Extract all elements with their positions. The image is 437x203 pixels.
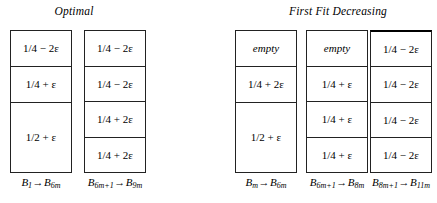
bin-ffd-2: empty 1/4 + ε 1/4 + ε 1/4 + ε: [306, 30, 368, 173]
bin-cell: 1/4 − 2ε: [85, 31, 145, 67]
label-arrow: →: [336, 176, 348, 188]
label-arrow: →: [398, 176, 410, 188]
bin-label-ffd-3: B8m+1→B11m: [360, 176, 437, 190]
label-from-subscript: 8m+1: [379, 181, 398, 190]
bin-cell: 1/4 + 2ε: [85, 102, 145, 138]
bin-packing-figure: Optimal First Fit Decreasing 1/4 − 2ε 1/…: [0, 0, 437, 203]
bin-cell: 1/4 − 2ε: [85, 67, 145, 103]
bin-cell: 1/2 + ε: [11, 103, 71, 173]
label-to-symbol: B: [44, 176, 51, 188]
bin-cell: 1/4 − 2ε: [371, 103, 431, 138]
bin-cell-empty: empty: [307, 31, 367, 67]
label-arrow: →: [258, 176, 270, 188]
bin-cell-empty: empty: [236, 31, 296, 67]
label-from-subscript: 6m+1: [317, 181, 336, 190]
bin-cell: 1/4 + ε: [307, 67, 367, 103]
bin-label-optimal-1: B1→B6m: [6, 176, 76, 190]
group-title-optimal: Optimal: [0, 5, 148, 17]
bin-cell: 1/4 + 2ε: [236, 67, 296, 103]
bin-cell: 1/4 + 2ε: [85, 138, 145, 173]
bin-optimal-1: 1/4 − 2ε 1/4 + ε 1/2 + ε: [10, 30, 72, 173]
label-to-subscript: 6m: [277, 181, 287, 190]
bin-cell: 1/4 − 2ε: [371, 32, 431, 67]
bin-label-optimal-2: B6m+1→B9m: [74, 176, 156, 190]
bin-cell: 1/4 + ε: [11, 67, 71, 103]
bin-optimal-2: 1/4 − 2ε 1/4 − 2ε 1/4 + 2ε 1/4 + 2ε: [84, 30, 146, 173]
bin-cell: 1/4 − 2ε: [11, 31, 71, 67]
label-from-symbol: B: [372, 176, 379, 188]
label-from-subscript: 6m+1: [95, 181, 114, 190]
label-to-subscript: 11m: [417, 181, 430, 190]
bin-label-ffd-1: Bm→B6m: [230, 176, 302, 190]
group-title-first-fit-decreasing: First Fit Decreasing: [240, 5, 436, 17]
label-from-symbol: B: [310, 176, 317, 188]
bin-cell: 1/4 − 2ε: [371, 138, 431, 172]
bin-cell: 1/4 + ε: [307, 102, 367, 138]
bin-cell: 1/4 + ε: [307, 138, 367, 173]
bin-cell: 1/4 − 2ε: [371, 67, 431, 102]
label-from-symbol: B: [88, 176, 95, 188]
label-arrow: →: [32, 176, 44, 188]
label-to-subscript: 9m: [132, 181, 142, 190]
bin-ffd-3: 1/4 − 2ε 1/4 − 2ε 1/4 − 2ε 1/4 − 2ε: [370, 30, 432, 173]
label-to-symbol: B: [270, 176, 277, 188]
label-to-subscript: 6m: [51, 181, 61, 190]
label-to-symbol: B: [410, 176, 417, 188]
bin-ffd-1: empty 1/4 + 2ε 1/2 + ε: [235, 30, 297, 173]
label-arrow: →: [114, 176, 126, 188]
bin-cell: 1/2 + ε: [236, 103, 296, 173]
